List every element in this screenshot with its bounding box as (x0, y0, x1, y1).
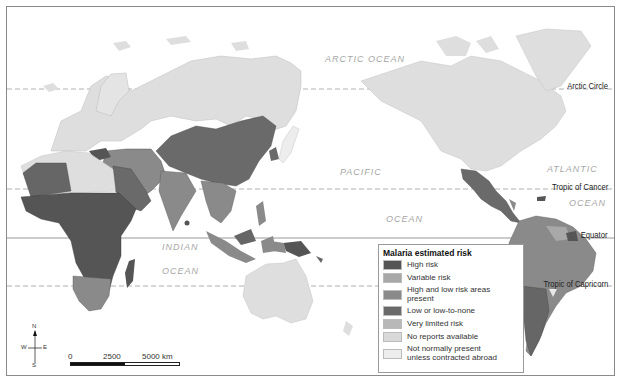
compass-s: S (32, 362, 36, 368)
indian-ocean-label: INDIAN (162, 242, 199, 252)
arctic-circle-label: Arctic Circle (567, 81, 608, 91)
scale-label-5000: 5000 km (142, 352, 173, 361)
arctic-ocean-label: ARCTIC OCEAN (325, 54, 405, 64)
legend-item-no-reports: No reports available (383, 332, 519, 342)
tropic-capricorn-label: Tropic of Capricorn (543, 279, 608, 289)
scale-bar-graphic (70, 362, 180, 366)
legend-label: Variable risk (407, 274, 450, 283)
legend-label: High and low risk areas present (407, 286, 507, 303)
legend-label: Low or low-to-none (407, 307, 475, 316)
legend-swatch-low (383, 306, 402, 316)
atlantic-ocean-label-2: OCEAN (569, 198, 606, 208)
legend-item-very-limited: Very limited risk (383, 319, 519, 329)
legend-label: No reports available (407, 333, 478, 342)
legend-swatch-no-reports (383, 332, 402, 342)
legend-item-low: Low or low-to-none (383, 306, 519, 316)
legend-item-high-risk: High risk (383, 260, 519, 270)
legend-swatch-high-risk (383, 260, 402, 270)
compass-n: N (32, 323, 36, 329)
legend-item-not-present: Not normally present unless contracted a… (383, 345, 519, 362)
mexico-central-america (461, 169, 521, 223)
legend-item-high-and-low: High and low risk areas present (383, 286, 519, 303)
compass-e: E (43, 344, 47, 350)
pacific-ocean-label-2: OCEAN (386, 214, 423, 224)
pacific-ocean-label: PACIFIC (340, 167, 382, 177)
compass-w: W (21, 344, 27, 350)
legend-label: Not normally present unless contracted a… (407, 345, 502, 362)
legend-swatch-variable-risk (383, 273, 402, 283)
legend-label: High risk (407, 261, 438, 270)
scale-label-2500: 2500 (103, 352, 121, 361)
india (159, 171, 196, 231)
scale-bar: 0 2500 5000 km (68, 352, 198, 372)
equator-label: Equator (581, 230, 608, 240)
indian-ocean-label-2: OCEAN (162, 266, 199, 276)
scale-label-0: 0 (68, 352, 72, 361)
legend-item-variable-risk: Variable risk (383, 273, 519, 283)
atlantic-ocean-label: ATLANTIC (547, 164, 598, 174)
legend: Malaria estimated risk High risk Variabl… (378, 244, 524, 373)
legend-swatch-high-and-low (383, 290, 402, 300)
legend-swatch-not-present (383, 349, 402, 359)
southern-africa (73, 276, 111, 311)
legend-label: Very limited risk (407, 320, 463, 329)
australia (243, 259, 313, 323)
legend-title: Malaria estimated risk (383, 248, 519, 258)
papua-new-guinea (283, 241, 311, 257)
legend-swatch-very-limited (383, 319, 402, 329)
tropic-cancer-label: Tropic of Cancer (552, 182, 608, 192)
compass-rose-icon: N W E S (20, 325, 50, 370)
